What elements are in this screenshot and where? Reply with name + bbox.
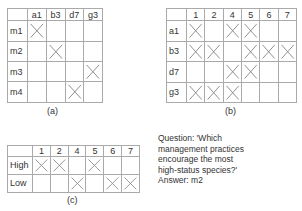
cross-mark-icon <box>66 82 84 102</box>
cross-mark-icon <box>104 175 121 192</box>
marked-cell <box>187 41 205 61</box>
marked-cell <box>241 41 259 61</box>
question-line: high-status species?' <box>158 165 244 176</box>
table-c-status-levels: 124567HighLow <box>7 145 140 193</box>
cross-mark-icon <box>51 157 68 174</box>
question-line: management practices <box>158 144 244 155</box>
table-row: m4 <box>8 82 103 103</box>
empty-cell <box>260 62 278 82</box>
column-header: 4 <box>223 9 241 21</box>
column-header: g3 <box>84 9 103 21</box>
column-header: 1 <box>187 9 205 21</box>
column-header: b3 <box>46 9 65 21</box>
marked-cell <box>104 174 122 192</box>
column-header: 5 <box>86 146 104 157</box>
cross-mark-icon <box>242 42 259 61</box>
column-header: 6 <box>260 9 278 21</box>
empty-cell <box>205 21 223 41</box>
column-header: 1 <box>33 146 51 157</box>
empty-cell <box>84 41 103 61</box>
empty-cell <box>223 41 241 61</box>
corner-cell <box>167 9 187 21</box>
marked-cell <box>28 21 47 41</box>
row-header: b3 <box>167 41 187 61</box>
cross-mark-icon <box>224 83 241 102</box>
cross-mark-icon <box>205 83 222 102</box>
marked-cell <box>65 82 84 103</box>
table-row: m1 <box>8 21 103 41</box>
empty-cell <box>122 157 140 175</box>
column-header: 2 <box>205 9 223 21</box>
cross-mark-icon <box>84 62 102 81</box>
empty-cell <box>260 21 278 41</box>
column-header: d7 <box>65 9 84 21</box>
cross-mark-icon <box>187 21 204 40</box>
table-row: a1 <box>167 21 297 41</box>
table-row: g3 <box>167 82 297 102</box>
marked-cell <box>260 41 278 61</box>
empty-cell <box>278 21 296 41</box>
empty-cell <box>46 21 65 41</box>
cross-mark-icon <box>242 62 259 81</box>
cross-mark-icon <box>86 157 103 174</box>
cross-mark-icon <box>224 62 241 81</box>
empty-cell <box>28 61 47 81</box>
cross-mark-icon <box>205 42 222 61</box>
empty-cell <box>84 82 103 103</box>
empty-cell <box>260 82 278 102</box>
row-header: d7 <box>167 62 187 82</box>
marked-cell <box>84 61 103 81</box>
marked-cell <box>278 41 296 61</box>
cross-mark-icon <box>242 21 259 40</box>
column-header: 2 <box>50 146 68 157</box>
empty-cell <box>65 21 84 41</box>
cross-mark-icon <box>47 42 65 61</box>
caption-c: (c) <box>67 195 78 205</box>
empty-cell <box>86 174 104 192</box>
empty-cell <box>50 174 68 192</box>
marked-cell <box>46 41 65 61</box>
empty-cell <box>28 82 47 103</box>
empty-cell <box>65 41 84 61</box>
cross-mark-icon <box>122 175 139 192</box>
marked-cell <box>223 82 241 102</box>
corner-cell <box>8 9 28 21</box>
empty-cell <box>205 62 223 82</box>
marked-cell <box>50 157 68 175</box>
column-header: 7 <box>278 9 296 21</box>
cross-mark-icon <box>187 83 204 102</box>
marked-cell <box>241 21 259 41</box>
table-row: High <box>8 157 140 175</box>
question-line: Question: 'Which <box>158 133 244 144</box>
marked-cell <box>223 62 241 82</box>
column-header: 5 <box>241 9 259 21</box>
marked-cell <box>205 82 223 102</box>
cross-mark-icon <box>33 157 50 174</box>
table-row: m2 <box>8 41 103 61</box>
table-a-management-species: a1b3d7g3m1m2m3m4 <box>7 8 103 103</box>
empty-cell <box>46 61 65 81</box>
empty-cell <box>68 157 86 175</box>
marked-cell <box>187 21 205 41</box>
empty-cell <box>46 82 65 103</box>
table-row: m3 <box>8 61 103 81</box>
row-header: g3 <box>167 82 187 102</box>
question-text: Question: 'Which management practices en… <box>158 133 244 186</box>
empty-cell <box>104 157 122 175</box>
cross-mark-icon <box>279 42 296 61</box>
caption-a: (a) <box>47 106 58 116</box>
corner-cell <box>8 146 33 157</box>
marked-cell <box>241 62 259 82</box>
empty-cell <box>84 21 103 41</box>
empty-cell <box>28 41 47 61</box>
marked-cell <box>68 174 86 192</box>
answer-text: Answer: m2 <box>158 175 244 186</box>
column-header: 6 <box>104 146 122 157</box>
caption-b: (b) <box>225 106 236 116</box>
marked-cell <box>223 21 241 41</box>
table-row: d7 <box>167 62 297 82</box>
marked-cell <box>86 157 104 175</box>
marked-cell <box>205 41 223 61</box>
table-row: b3 <box>167 41 297 61</box>
column-header: a1 <box>28 9 47 21</box>
